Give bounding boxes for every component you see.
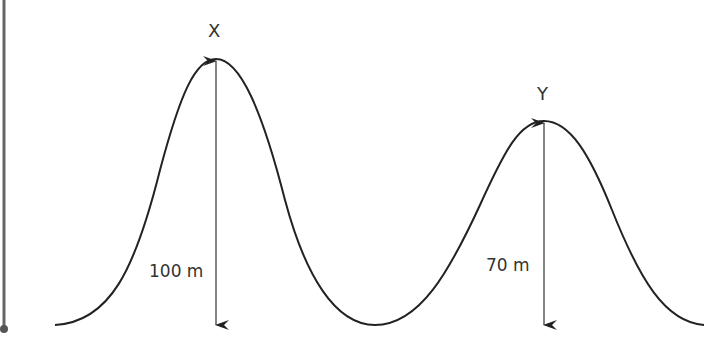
- diagram-canvas: [0, 0, 704, 339]
- height-label-y: 70 m: [486, 257, 530, 274]
- wave-curve: [55, 59, 704, 325]
- peak-label-x: X: [208, 22, 220, 40]
- side-bar-end-dot: [0, 325, 8, 333]
- wave-diagram: X Y 100 m 70 m: [0, 0, 704, 339]
- peak-label-y: Y: [537, 85, 548, 103]
- side-bar: [0, 0, 8, 333]
- height-label-x: 100 m: [149, 263, 203, 280]
